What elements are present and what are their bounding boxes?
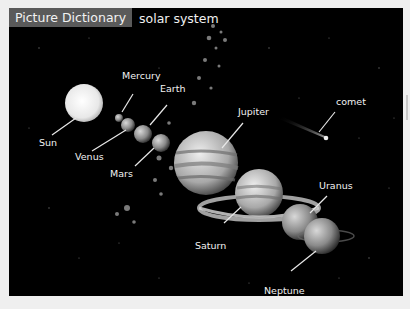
- label-uranus: Uranus: [319, 180, 353, 191]
- sun: [65, 84, 103, 122]
- venus: [121, 118, 135, 132]
- label-neptune: Neptune: [264, 286, 305, 295]
- picture-dictionary-tag: Picture Dictionary: [9, 8, 132, 27]
- solar-system-illustration: Picture Dictionary solar system Sun Merc…: [9, 8, 403, 296]
- label-comet: comet: [336, 96, 366, 107]
- label-sun: Sun: [39, 137, 57, 148]
- mercury: [115, 114, 123, 122]
- label-mars: Mars: [110, 168, 133, 179]
- earth: [134, 125, 152, 143]
- label-jupiter: Jupiter: [238, 106, 269, 117]
- comet: [279, 116, 328, 140]
- page-title: solar system: [139, 11, 219, 27]
- mars: [152, 134, 170, 152]
- label-saturn: Saturn: [195, 240, 226, 251]
- scrollbar-thumb[interactable]: [406, 95, 408, 120]
- solar-system-artwork: [9, 8, 403, 296]
- label-venus: Venus: [75, 151, 104, 162]
- label-earth: Earth: [160, 83, 185, 94]
- label-mercury: Mercury: [122, 70, 161, 81]
